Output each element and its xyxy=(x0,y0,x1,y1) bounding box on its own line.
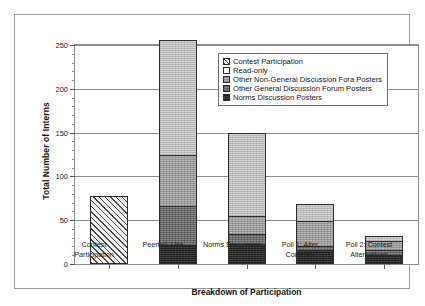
bar-segment[interactable] xyxy=(228,133,266,215)
y-tick-label: 150 xyxy=(55,129,68,138)
x-tick xyxy=(109,264,110,269)
y-tick-minor xyxy=(72,168,75,169)
legend-swatch-icon-other-non-general xyxy=(223,76,230,83)
y-tick-minor xyxy=(72,124,75,125)
y-tick-label: 100 xyxy=(55,172,68,181)
y-tick-minor xyxy=(72,80,75,81)
y-tick-minor xyxy=(72,238,75,239)
y-tick-minor xyxy=(72,194,75,195)
y-tick-minor xyxy=(72,159,75,160)
y-tick-label: 200 xyxy=(55,85,68,94)
y-axis-title: Total Number of Interns xyxy=(41,56,51,246)
bar-segment[interactable] xyxy=(159,155,197,207)
x-axis-title: Breakdown of Participation xyxy=(74,287,419,297)
x-tick xyxy=(247,264,248,269)
y-tick-50 xyxy=(70,220,75,221)
y-tick-minor xyxy=(72,115,75,116)
y-tick-label: 250 xyxy=(55,41,68,50)
legend-label: Norms Discussion Posters xyxy=(233,93,322,102)
legend-swatch-icon-contest-participation xyxy=(223,58,230,65)
y-tick-minor xyxy=(72,229,75,230)
gridline-y-250 xyxy=(75,45,418,46)
bar-segment[interactable] xyxy=(159,206,197,245)
y-tick-minor xyxy=(72,63,75,64)
legend-label: Other Non-General Discussion Fora Poster… xyxy=(233,75,382,84)
legend-label: Contest Participation xyxy=(233,57,303,66)
legend-item-read-only: Read-only xyxy=(223,66,382,75)
chart-legend: Contest Participation Read-only Other No… xyxy=(218,53,388,106)
x-tick xyxy=(178,264,179,269)
x-category-line: Poll 2: Contest xyxy=(324,240,414,250)
x-tick xyxy=(384,264,385,269)
y-tick-label: 0 xyxy=(64,260,68,269)
figure-canvas: Total Number of Interns 050100150200250 … xyxy=(0,0,425,306)
y-tick-250 xyxy=(70,45,75,46)
legend-item-other-general: Other General Discussion Forum Posters xyxy=(223,84,382,93)
y-tick-0 xyxy=(70,264,75,265)
y-tick-minor xyxy=(72,150,75,151)
bar-segment[interactable] xyxy=(159,40,197,155)
y-tick-minor xyxy=(72,54,75,55)
bar-segment[interactable] xyxy=(296,204,334,221)
x-category-line: Participation xyxy=(49,250,139,260)
y-tick-minor xyxy=(72,141,75,142)
x-category-line: Alternatives xyxy=(324,250,414,260)
y-tick-minor xyxy=(72,211,75,212)
y-tick-100 xyxy=(70,176,75,177)
figure-outer-frame: Total Number of Interns 050100150200250 … xyxy=(14,14,410,289)
legend-label: Read-only xyxy=(233,66,268,75)
legend-swatch-icon-norms-discussion xyxy=(223,94,230,101)
y-tick-label: 50 xyxy=(60,216,68,225)
y-tick-minor xyxy=(72,71,75,72)
legend-label: Other General Discussion Forum Posters xyxy=(233,84,372,93)
y-tick-minor xyxy=(72,106,75,107)
legend-swatch-icon-read-only xyxy=(223,67,230,74)
y-tick-minor xyxy=(72,98,75,99)
y-tick-200 xyxy=(70,89,75,90)
legend-item-contest-participation: Contest Participation xyxy=(223,57,382,66)
legend-item-other-non-general: Other Non-General Discussion Fora Poster… xyxy=(223,75,382,84)
legend-item-norms-discussion: Norms Discussion Posters xyxy=(223,93,382,102)
y-tick-150 xyxy=(70,133,75,134)
bar-segment[interactable] xyxy=(228,216,266,234)
x-tick xyxy=(315,264,316,269)
x-category-label-5: Poll 2: ContestAlternatives xyxy=(324,240,414,260)
y-tick-minor xyxy=(72,203,75,204)
y-tick-minor xyxy=(72,185,75,186)
legend-swatch-icon-other-general xyxy=(223,85,230,92)
